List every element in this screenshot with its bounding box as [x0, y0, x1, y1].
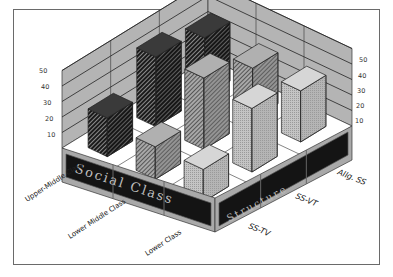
left-tick-30: 30 [43, 99, 51, 107]
left-tick-20: 20 [45, 115, 53, 123]
left-axis-ticks: 10 20 30 40 50 [39, 67, 55, 139]
right-axis-ticks: 10 20 30 40 50 [355, 56, 367, 125]
series-label-ss-vt: SS-VT [294, 192, 320, 209]
right-tick-40: 40 [358, 72, 366, 80]
bar-ss-tv-1 [233, 84, 278, 172]
right-tick-20: 20 [356, 102, 364, 110]
series-label-allg-ss: Allg. SS [335, 167, 367, 187]
right-tick-50: 50 [359, 56, 367, 64]
right-tick-10: 10 [355, 117, 363, 125]
bar-ss-tv-0 [281, 66, 326, 142]
series-label-ss-tv: SS-TV [247, 222, 272, 239]
bar-ss-vt-1 [185, 53, 230, 149]
bar-chart-3d: Social ClassStructure 10 20 30 40 50 10 … [0, 0, 393, 277]
category-label-lower-middle: Lower Middle Class [67, 197, 128, 240]
left-tick-10: 10 [47, 131, 55, 139]
category-label-lower: Lower Class [144, 228, 184, 258]
right-tick-30: 30 [357, 87, 365, 95]
left-tick-50: 50 [39, 67, 47, 75]
bar-allg-ss-1 [137, 32, 182, 126]
left-tick-40: 40 [41, 83, 49, 91]
